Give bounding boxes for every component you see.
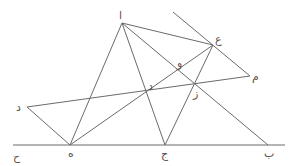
point-label-waw: و [176, 57, 182, 70]
point-label-ha: ه [68, 147, 74, 160]
line-dal-ha [27, 107, 70, 145]
point-label-ayn: ع [215, 33, 222, 46]
point-label-alif: ا [119, 9, 122, 22]
geometric-diagram: اعمدهجبحدوز [0, 0, 300, 166]
point-label-ba: ب [264, 147, 274, 160]
point-label-mim: م [252, 70, 259, 83]
point-label-jim: ج [161, 148, 169, 161]
point-label-dal-left: د [16, 101, 21, 114]
point-label-dal-center: د [148, 80, 153, 93]
diagram-lines [13, 12, 285, 145]
point-label-ha-jim: ح [13, 150, 21, 163]
line-jim-ayn [165, 45, 213, 145]
point-label-zay: ز [192, 87, 198, 100]
line-top-mim [173, 12, 250, 76]
